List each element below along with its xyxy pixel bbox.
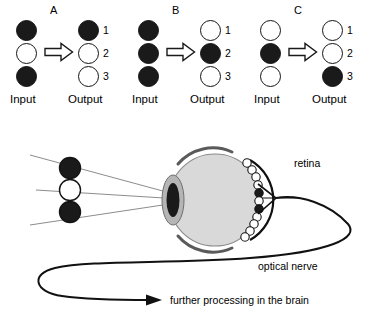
panel-b-output-label: Output: [190, 93, 225, 105]
brain-arrowhead-icon: [146, 295, 162, 306]
output-dot-1: 1: [322, 20, 343, 41]
panel-a: A 1 2 3 Input Output: [6, 0, 126, 115]
panel-a-label: A: [50, 4, 58, 16]
retina-cell-11: [241, 233, 249, 241]
input-dot-3: [138, 66, 159, 87]
panel-b-input-label: Input: [132, 93, 158, 105]
output-dot-3: 3: [200, 66, 221, 87]
stimulus-dot-3: [60, 202, 81, 223]
output-dot-1: 1: [78, 20, 99, 41]
input-dot-3: [16, 66, 37, 87]
output-number-1: 1: [347, 25, 353, 36]
output-dot-1: 1: [200, 20, 221, 41]
input-dot-1: [260, 20, 281, 41]
output-number-1: 1: [225, 25, 231, 36]
stimulus-column: [60, 158, 81, 223]
panel-b-label: B: [172, 4, 180, 16]
output-number-1: 1: [103, 25, 109, 36]
output-dot-2: 2: [200, 43, 221, 64]
transform-arrow-icon: [44, 42, 74, 62]
retina-cell-3: [252, 173, 260, 181]
lens-core: [167, 183, 180, 217]
brain-processing-label: further processing in the brain: [170, 294, 309, 306]
output-dot-3: 3: [322, 66, 343, 87]
input-dot-1: [138, 20, 159, 41]
eye-anatomy-diagram: retina optical nerve further processing …: [0, 112, 373, 322]
input-dot-2: [260, 43, 281, 64]
panel-c-label: C: [294, 4, 302, 16]
output-dot-3: 3: [78, 66, 99, 87]
input-dot-2: [16, 43, 37, 64]
output-number-3: 3: [347, 71, 353, 82]
input-dot-2: [138, 43, 159, 64]
retina-cell-7: [255, 205, 263, 213]
stimulus-response-panels: A 1 2 3 Input Output B: [0, 0, 373, 115]
panel-c-input-label: Input: [254, 93, 280, 105]
output-number-3: 3: [103, 71, 109, 82]
transform-arrow-icon: [166, 42, 196, 62]
output-number-2: 2: [225, 48, 231, 59]
panel-a-output-label: Output: [68, 93, 103, 105]
panel-c-output-label: Output: [312, 93, 347, 105]
retina-label: retina: [294, 157, 320, 169]
input-dot-3: [260, 66, 281, 87]
panel-a-output-column: 1 2 3: [78, 20, 112, 89]
stimulus-dot-1: [60, 158, 81, 179]
output-dot-2: 2: [78, 43, 99, 64]
input-dot-1: [16, 20, 37, 41]
panel-a-input-label: Input: [10, 93, 36, 105]
transform-arrow-icon: [288, 42, 318, 62]
panel-c: C 1 2 3 Input Output: [250, 0, 370, 115]
panel-b: B 1 2 3 Input Output: [128, 0, 248, 115]
output-dot-2: 2: [322, 43, 343, 64]
panel-b-output-column: 1 2 3: [200, 20, 234, 89]
optical-nerve-label: optical nerve: [258, 260, 318, 272]
output-number-2: 2: [103, 48, 109, 59]
panel-c-output-column: 1 2 3: [322, 20, 356, 89]
stimulus-dot-2: [60, 180, 81, 201]
output-number-3: 3: [225, 71, 231, 82]
retina-cell-6: [255, 197, 263, 205]
output-number-2: 2: [347, 48, 353, 59]
retina-cell-5: [255, 189, 263, 197]
